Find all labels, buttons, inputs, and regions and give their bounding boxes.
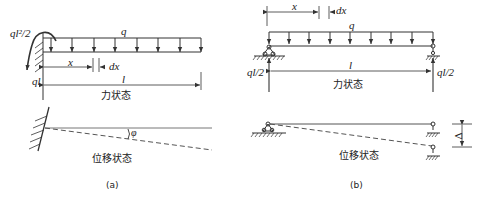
length-label: l bbox=[349, 60, 352, 70]
fig-a-displacement-state bbox=[29, 107, 212, 151]
caption-b: (b) bbox=[350, 180, 363, 190]
distributed-load-arrows bbox=[269, 32, 433, 44]
distributed-load-arrows bbox=[51, 38, 201, 52]
right-reaction-label: ql/2 bbox=[437, 67, 454, 77]
pin-support-icon bbox=[253, 45, 285, 60]
force-state-label: 力状态 bbox=[101, 91, 131, 101]
diagram-canvas bbox=[0, 0, 478, 200]
angle-arc-icon bbox=[128, 129, 130, 139]
wall-hatch-icon bbox=[35, 42, 43, 72]
caption-a: (a) bbox=[106, 180, 119, 190]
left-reaction-label: ql/2 bbox=[247, 67, 264, 77]
dx-label: dx bbox=[109, 61, 119, 71]
x-label: x bbox=[68, 57, 73, 67]
x-label: x bbox=[292, 1, 297, 11]
load-label: q bbox=[121, 26, 127, 36]
length-label: l bbox=[122, 74, 125, 84]
reaction-label: ql bbox=[32, 76, 41, 86]
displacement-state-label: 位移状态 bbox=[339, 151, 379, 161]
settled-roller-support-icon bbox=[426, 145, 440, 160]
wall-hatch-icon bbox=[29, 116, 47, 149]
settlement-label: Δ bbox=[454, 132, 464, 139]
dx-label: dx bbox=[336, 5, 346, 15]
load-label: q bbox=[349, 20, 355, 30]
rotation-label: φ bbox=[131, 128, 137, 138]
force-state-label: 力状态 bbox=[333, 80, 363, 90]
displacement-state-label: 位移状态 bbox=[92, 154, 132, 164]
moment-label: ql²/2 bbox=[10, 28, 30, 38]
settled-beam-dashed bbox=[270, 124, 432, 146]
